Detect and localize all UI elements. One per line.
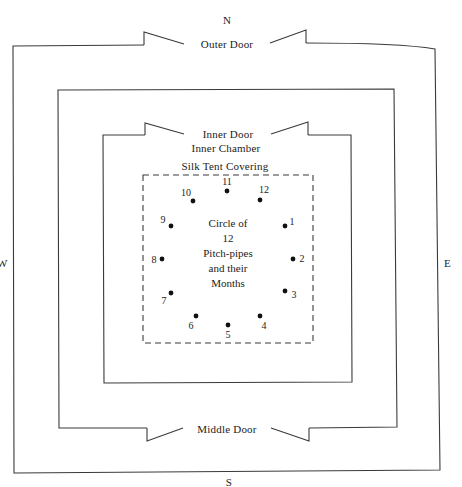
pitch-pipe-label-6: 6 [189, 321, 194, 331]
pitch-pipe-label-8: 8 [152, 255, 157, 265]
center-caption: Circle of 12 Pitch-pipes and their Month… [203, 216, 253, 291]
inner-chamber-label: Inner Chamber [192, 142, 261, 154]
pitch-pipe-label-10: 10 [181, 188, 191, 198]
pitch-pipe-dot-12 [258, 198, 263, 203]
center-caption-line-4: and their [203, 261, 253, 276]
pitch-pipe-dot-3 [283, 289, 288, 294]
pitch-pipe-dot-1 [283, 224, 288, 229]
pitch-pipe-dot-10 [191, 199, 196, 204]
center-caption-line-3: Pitch-pipes [203, 246, 253, 261]
compass-north-label: N [223, 14, 231, 26]
middle-door-right-flap [271, 428, 309, 441]
middle-door-left-flap [147, 428, 183, 441]
center-caption-line-2: 12 [203, 231, 253, 246]
inner-door-label: Inner Door [203, 128, 254, 140]
silk-tent-covering-label: Silk Tent Covering [182, 160, 269, 172]
pitch-pipe-label-9: 9 [161, 215, 166, 225]
pitch-pipe-dot-11 [225, 189, 230, 194]
pitch-pipe-dot-9 [169, 224, 174, 229]
outer-door-label: Outer Door [201, 38, 253, 50]
inner-door-right-flap [271, 122, 308, 135]
pitch-pipe-label-4: 4 [262, 321, 267, 331]
pitch-pipe-dot-8 [160, 257, 165, 262]
pitch-pipe-dot-7 [169, 291, 174, 296]
pitch-pipe-label-12: 12 [259, 185, 269, 195]
center-caption-line-5: Months [203, 276, 253, 291]
pitch-pipe-dot-5 [226, 323, 231, 328]
pitch-pipe-label-5: 5 [226, 330, 231, 340]
pitch-pipe-label-2: 2 [300, 254, 305, 264]
pitch-pipe-label-7: 7 [162, 296, 167, 306]
pitch-pipe-label-3: 3 [292, 290, 297, 300]
center-caption-line-1: Circle of [203, 216, 253, 231]
middle-door-label: Middle Door [197, 423, 256, 435]
pitch-pipe-label-1: 1 [290, 217, 295, 227]
compass-west-label: W [0, 257, 8, 269]
pitch-pipe-dot-4 [258, 314, 263, 319]
compass-south-label: S [226, 476, 232, 487]
pitch-pipe-dot-6 [194, 314, 199, 319]
outer-door-right-flap [270, 30, 306, 43]
compass-east-label: E [444, 257, 451, 269]
outer-door-left-flap [144, 32, 184, 45]
inner-door-left-flap [145, 123, 184, 135]
pitch-pipe-label-11: 11 [222, 177, 232, 187]
pitch-pipe-dot-2 [291, 257, 296, 262]
